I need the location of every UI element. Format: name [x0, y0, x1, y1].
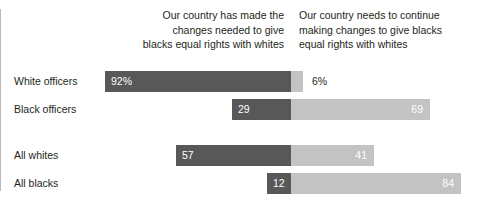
column-header-right: Our country needs to continue making cha…	[299, 8, 475, 52]
bar-segment-made-changes: 57	[176, 145, 291, 166]
chart-row: White officers92%6%	[0, 71, 479, 92]
bar-value-label: 92%	[111, 71, 132, 92]
bar-segment-needs-continue: 84	[291, 173, 461, 194]
bar-value-label: 6%	[312, 71, 327, 92]
bar-segment-made-changes: 29	[232, 99, 291, 120]
bar-value-label: 57	[182, 145, 194, 166]
row-label: All blacks	[0, 173, 98, 194]
bar-value-label: 12	[273, 173, 285, 194]
chart-row: All whites5741	[0, 145, 479, 166]
bar-segment-made-changes: 12	[267, 173, 291, 194]
bar-segment-needs-continue: 41	[291, 145, 374, 166]
bar-value-label: 29	[238, 99, 250, 120]
bar-segment-needs-continue	[291, 71, 303, 92]
bar-segment-needs-continue: 69	[291, 99, 430, 120]
bar-segment-made-changes: 92%	[105, 71, 291, 92]
column-header-left: Our country has made the changes needed …	[118, 8, 284, 52]
bar-value-label: 84	[442, 173, 454, 194]
bar-value-label: 41	[355, 145, 367, 166]
chart-row: All blacks1284	[0, 173, 479, 194]
row-label: White officers	[0, 71, 98, 92]
bar-value-label: 69	[411, 99, 423, 120]
row-label: All whites	[0, 145, 98, 166]
row-label: Black officers	[0, 99, 98, 120]
column-headers: Our country has made the changes needed …	[0, 8, 479, 60]
diverging-bar-chart: Our country has made the changes needed …	[0, 0, 479, 213]
chart-row: Black officers2969	[0, 99, 479, 120]
